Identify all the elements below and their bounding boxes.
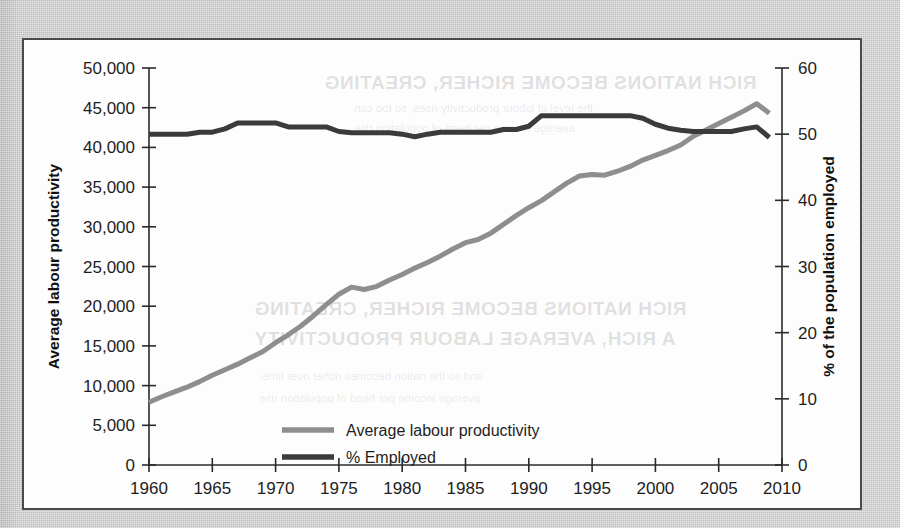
left-tick-label: 40,000: [83, 138, 135, 157]
axes-group: [149, 68, 782, 465]
legend-label: % Employed: [346, 449, 436, 466]
series-line-average-labour-productivity: [149, 104, 769, 403]
right-tick-label: 30: [798, 258, 817, 277]
chart-card: RICH NATIONS BECOME RICHER, CREATING the…: [22, 38, 862, 510]
right-axis-title: % of the population employed: [820, 156, 837, 376]
series-group: [149, 104, 769, 403]
x-tick-label: 2000: [636, 479, 674, 498]
right-tick-label: 20: [798, 324, 817, 343]
x-tick-label: 2010: [763, 479, 801, 498]
x-tick-label: 1960: [130, 479, 168, 498]
right-tick-label: 50: [798, 125, 817, 144]
left-tick-label: 15,000: [83, 337, 135, 356]
legend-label: Average labour productivity: [346, 422, 540, 439]
left-tick-label: 10,000: [83, 377, 135, 396]
x-tick-label: 1985: [447, 479, 485, 498]
x-tick-label: 1990: [510, 479, 548, 498]
left-tick-label: 20,000: [83, 297, 135, 316]
line-chart: 05,00010,00015,00020,00025,00030,00035,0…: [24, 40, 862, 510]
right-tick-label: 10: [798, 390, 817, 409]
x-axis-ticks: 1960196519701975198019851990199520002005…: [130, 458, 801, 498]
series-line-percent-employed: [149, 116, 769, 138]
left-axis-ticks: 05,00010,00015,00020,00025,00030,00035,0…: [83, 59, 156, 475]
left-tick-label: 5,000: [92, 416, 135, 435]
right-tick-label: 0: [798, 456, 807, 475]
right-tick-label: 40: [798, 191, 817, 210]
left-axis-title: Average labour productivity: [45, 163, 62, 369]
left-tick-label: 35,000: [83, 178, 135, 197]
left-tick-label: 0: [126, 456, 135, 475]
left-tick-label: 30,000: [83, 218, 135, 237]
x-tick-label: 1995: [573, 479, 611, 498]
chart-legend: Average labour productivity% Employed: [282, 422, 540, 466]
x-tick-label: 1965: [193, 479, 231, 498]
x-tick-label: 1975: [320, 479, 358, 498]
left-tick-label: 45,000: [83, 99, 135, 118]
x-tick-label: 1980: [383, 479, 421, 498]
x-tick-label: 1970: [257, 479, 295, 498]
left-tick-label: 25,000: [83, 258, 135, 277]
right-tick-label: 60: [798, 59, 817, 78]
x-tick-label: 2005: [700, 479, 738, 498]
left-tick-label: 50,000: [83, 59, 135, 78]
figure-page: RICH NATIONS BECOME RICHER, CREATING the…: [0, 0, 900, 528]
